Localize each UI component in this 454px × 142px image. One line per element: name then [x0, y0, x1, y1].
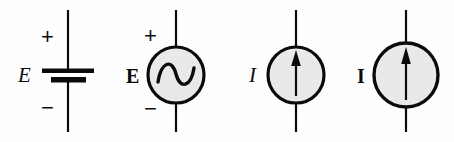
ac-source-plus-sign: +: [144, 25, 157, 47]
ac-source-label: E: [126, 66, 139, 86]
dc-source-label: E: [18, 65, 31, 86]
current-source-phasor-label: I: [357, 66, 365, 86]
dc-source-plus-sign: +: [41, 26, 54, 48]
current-source-label: I: [249, 65, 256, 86]
current-source-phasor-symbol: [374, 10, 438, 132]
battery-negative-plate: [51, 77, 86, 83]
current-source-symbol: [268, 10, 324, 132]
ac-source-minus-sign: −: [144, 98, 157, 120]
circuit-symbols-figure: E + − E + − I I: [0, 0, 454, 142]
battery-positive-plate: [42, 69, 94, 74]
circuit-symbols-canvas: [0, 0, 454, 142]
dc-source-minus-sign: −: [41, 97, 54, 119]
